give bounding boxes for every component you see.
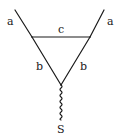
label-top-internal: c	[58, 23, 64, 36]
label-scalar: S	[57, 123, 65, 136]
left-external-line	[15, 10, 32, 37]
label-right-external: a	[107, 15, 114, 28]
scalar-wavy-line	[60, 85, 62, 120]
right-external-line	[90, 10, 104, 37]
label-left-internal: b	[36, 60, 43, 73]
label-right-internal: b	[80, 60, 87, 73]
label-left-external: a	[7, 15, 14, 28]
feynman-diagram: a a c b b S	[0, 0, 119, 139]
